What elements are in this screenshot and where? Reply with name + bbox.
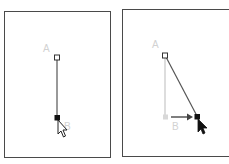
diagram-canvas: A B A B [0, 0, 229, 164]
anchor-a-right[interactable] [163, 53, 168, 58]
filled-arrow-cursor-icon [198, 119, 207, 134]
label-b-right: B [172, 121, 179, 132]
label-a-right: A [152, 39, 159, 50]
label-a-left: A [43, 43, 50, 54]
anchor-b-left[interactable] [55, 115, 61, 121]
anchor-b-right[interactable] [195, 114, 201, 120]
ghost-anchor-b [163, 115, 168, 120]
anchor-a-left[interactable] [55, 55, 60, 60]
drag-arrow-icon [187, 114, 193, 121]
segment-ab-right [166, 57, 197, 116]
